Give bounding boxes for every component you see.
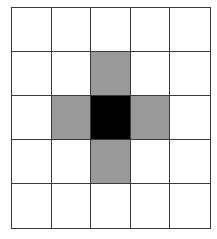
grid-cell-white — [131, 140, 171, 184]
grid-cell-white — [131, 8, 171, 52]
grid-cell-white — [91, 184, 131, 228]
grid-cell-white — [12, 140, 52, 184]
grid-cell-white — [52, 52, 92, 96]
grid-diagram — [11, 7, 211, 229]
grid-cell-white — [91, 8, 131, 52]
grid-cell-white — [12, 52, 52, 96]
grid-cell-white — [170, 96, 210, 140]
grid-cell-white — [12, 96, 52, 140]
grid-cell-white — [12, 184, 52, 228]
grid-cell-white — [52, 8, 92, 52]
grid-cell-black — [91, 96, 131, 140]
grid-cell-gray — [131, 96, 171, 140]
grid-cell-white — [131, 52, 171, 96]
grid-cell-white — [52, 184, 92, 228]
grid-cell-gray — [52, 96, 92, 140]
grid-cell-white — [170, 184, 210, 228]
grid-cell-gray — [91, 140, 131, 184]
grid-cell-white — [12, 8, 52, 52]
grid-cell-white — [131, 184, 171, 228]
grid-cell-white — [52, 140, 92, 184]
grid-cell-white — [170, 52, 210, 96]
grid-cell-white — [170, 8, 210, 52]
grid-cell-gray — [91, 52, 131, 96]
grid-cell-white — [170, 140, 210, 184]
